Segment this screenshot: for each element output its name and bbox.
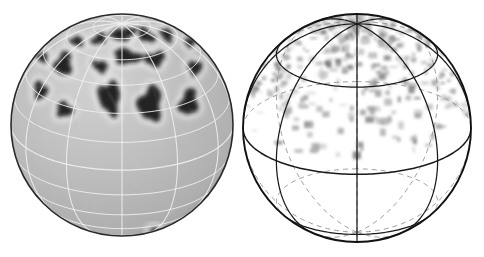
- speckle-patch: [310, 149, 318, 153]
- speckle-cluster-patch: [336, 79, 339, 84]
- speckle-cluster-patch: [288, 74, 291, 79]
- speckle-cluster-patch: [380, 67, 385, 71]
- speckle-patch: [421, 81, 429, 84]
- speckle-patch: [252, 130, 257, 132]
- speckle-patch: [320, 71, 328, 77]
- speckle-patch: [320, 30, 326, 35]
- speckle-cluster-patch: [365, 117, 374, 123]
- speckle-patch: [303, 47, 306, 51]
- speckle-cluster-patch: [404, 57, 407, 62]
- speckle-patch: [360, 144, 363, 146]
- speckle-patch: [332, 19, 335, 21]
- speckle-cluster-patch: [439, 74, 442, 78]
- speckle-patch: [330, 98, 333, 101]
- speckle-cluster-patch: [325, 48, 330, 53]
- speckle-cluster-patch: [380, 33, 383, 36]
- speckle-patch: [380, 129, 386, 137]
- speckle-patch: [362, 90, 365, 96]
- speckle-cluster-patch: [257, 81, 262, 84]
- speckle-patch: [297, 65, 302, 69]
- speckle-cluster-patch: [342, 46, 345, 52]
- speckle-patch: [402, 35, 404, 37]
- speckle-patch: [413, 135, 416, 141]
- surface-streak: [95, 201, 96, 215]
- speckle-cluster-patch: [443, 69, 447, 71]
- speckle-cluster-patch: [305, 122, 308, 126]
- speckle-cluster-patch: [360, 110, 366, 115]
- speckle-cluster-patch: [429, 58, 434, 61]
- speckle-cluster-patch: [374, 37, 377, 41]
- speckle-patch: [364, 17, 367, 19]
- speckle-cluster-patch: [279, 94, 283, 100]
- speckle-cluster-patch: [297, 57, 303, 62]
- speckle-cluster-patch: [279, 73, 282, 78]
- speckle-patch: [305, 50, 309, 52]
- speckle-patch: [361, 148, 364, 151]
- speckle-patch: [279, 107, 282, 110]
- speckle-patch: [307, 132, 312, 137]
- speckle-cluster-patch: [375, 106, 380, 111]
- speckle-cluster-patch: [286, 48, 290, 52]
- surface-streak: [117, 96, 124, 97]
- speckle-patch: [373, 64, 380, 67]
- speckle-patch: [309, 103, 316, 105]
- speckle-cluster-patch: [390, 36, 393, 40]
- speckle-cluster-patch: [346, 54, 350, 57]
- speckle-patch: [294, 149, 302, 152]
- speckle-cluster-patch: [350, 117, 353, 122]
- speckle-cluster-patch: [280, 84, 285, 88]
- speckle-cluster-patch: [354, 30, 358, 32]
- speckle-cluster-patch: [384, 70, 389, 75]
- speckle-cluster-patch: [281, 103, 286, 107]
- speckle-cluster-patch: [384, 55, 391, 60]
- speckle-patch: [404, 30, 409, 34]
- speckle-cluster-patch: [440, 82, 444, 84]
- speckle-patch: [322, 111, 329, 117]
- speckle-patch: [413, 147, 415, 153]
- speckle-patch: [329, 68, 337, 72]
- speckle-cluster-patch: [289, 57, 291, 59]
- speckle-cluster-patch: [296, 41, 301, 43]
- speckle-patch: [310, 37, 317, 39]
- speckle-cluster-patch: [334, 46, 340, 52]
- speckle-patch: [435, 124, 441, 130]
- speckle-cluster-patch: [398, 96, 401, 102]
- speckle-cluster-patch: [450, 89, 456, 91]
- speckle-patch: [257, 111, 264, 113]
- speckle-patch: [273, 72, 277, 75]
- speckle-cluster-patch: [418, 35, 423, 37]
- speckle-patch: [362, 30, 366, 33]
- right-panel-wireframe-sphere: [243, 12, 472, 242]
- speckle-cluster-patch: [369, 90, 376, 93]
- speckle-cluster-patch: [346, 34, 349, 39]
- speckle-patch: [320, 67, 322, 70]
- speckle-patch: [414, 97, 420, 99]
- speckle-patch: [360, 15, 364, 17]
- speckle-patch: [333, 86, 338, 91]
- speckle-cluster-patch: [342, 67, 347, 74]
- speckle-patch: [339, 104, 347, 106]
- speckle-cluster-patch: [292, 126, 299, 131]
- speckle-patch: [358, 49, 364, 55]
- speckle-cluster-patch: [254, 90, 258, 93]
- surface-streak: [56, 155, 57, 163]
- speckle-patch: [338, 128, 344, 134]
- speckle-patch: [298, 102, 305, 107]
- speckle-cluster-patch: [274, 62, 278, 67]
- speckle-patch: [316, 106, 322, 112]
- speckle-cluster-patch: [440, 95, 446, 101]
- speckle-patch: [342, 57, 348, 61]
- speckle-cluster-patch: [262, 76, 266, 80]
- speckle-cluster-patch: [375, 90, 382, 97]
- speckle-cluster-patch: [325, 60, 331, 64]
- speckle-patch: [425, 144, 432, 147]
- speckle-cluster-patch: [323, 22, 328, 24]
- speckle-patch: [324, 38, 327, 41]
- speckle-patch: [336, 152, 340, 157]
- speckle-patch: [327, 58, 334, 61]
- speckle-cluster-patch: [384, 99, 392, 106]
- speckle-patch: [398, 122, 403, 130]
- speckle-patch: [260, 90, 262, 93]
- speckle-cluster-patch: [376, 118, 385, 124]
- speckle-patch: [414, 109, 422, 114]
